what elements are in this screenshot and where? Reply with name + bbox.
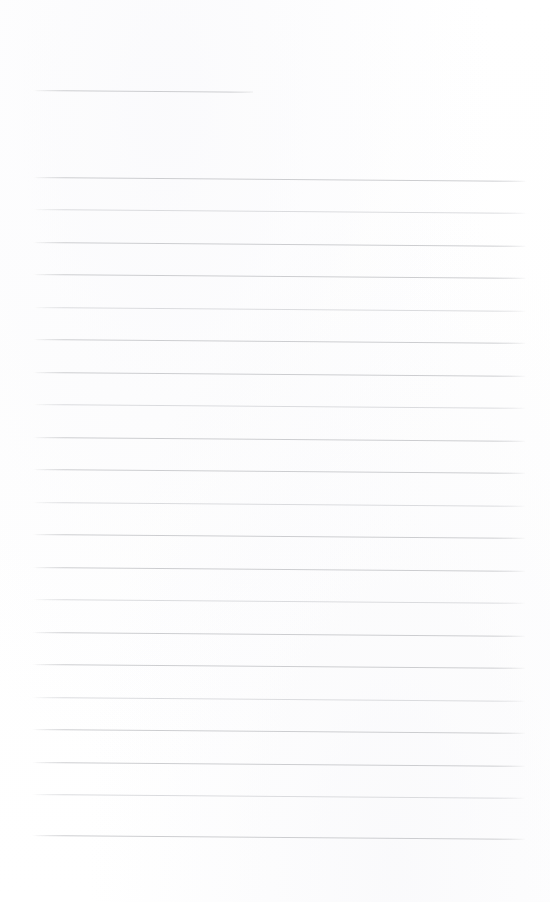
ruled-line [32, 339, 527, 344]
ruled-line [32, 404, 527, 409]
ruled-line [32, 307, 527, 312]
ruled-line [32, 177, 527, 182]
ruled-line [32, 534, 527, 539]
ruled-line [32, 502, 527, 507]
ruled-line [32, 274, 527, 279]
ruled-line [32, 697, 527, 702]
ruled-line [32, 437, 527, 442]
ruled-line [32, 372, 527, 377]
ruled-line [32, 762, 527, 767]
ruled-line [32, 567, 527, 572]
header-rule [32, 90, 253, 93]
ruled-lines-layer [0, 0, 550, 902]
ruled-line [32, 729, 527, 734]
ruled-line [32, 209, 527, 214]
ruled-line [32, 469, 527, 474]
ruled-line [32, 835, 527, 840]
ruled-line [32, 794, 527, 799]
ruled-line [32, 632, 527, 637]
ruled-line [32, 242, 527, 247]
bottom-margin [0, 848, 550, 902]
ruled-line [32, 664, 527, 669]
scanned-page [0, 0, 550, 902]
ruled-line [32, 599, 527, 604]
